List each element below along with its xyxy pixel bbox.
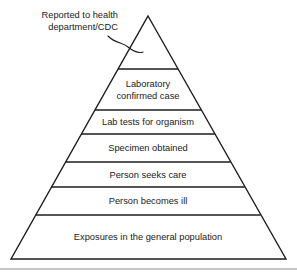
tier-label: Laboratory: [126, 79, 171, 89]
tier-label-group: Laboratoryconfirmed caseLab tests for or…: [74, 79, 222, 243]
tier-label: Person becomes ill: [109, 196, 188, 206]
curved-leader-line-icon: [108, 36, 143, 53]
annotation-line-1: Reported to health: [42, 10, 119, 20]
tier-label: Person seeks care: [110, 170, 187, 180]
tier-label: confirmed case: [116, 91, 179, 101]
tier-label: Lab tests for organism: [102, 117, 194, 127]
annotation-line-2: department/CDC: [48, 22, 118, 32]
surveillance-pyramid-figure: Laboratoryconfirmed caseLab tests for or…: [0, 0, 297, 273]
pyramid-diagram: Laboratoryconfirmed caseLab tests for or…: [0, 0, 297, 273]
tier-label: Specimen obtained: [108, 143, 188, 153]
tier-label: Exposures in the general population: [74, 232, 222, 242]
pyramid-outline: [11, 16, 286, 259]
